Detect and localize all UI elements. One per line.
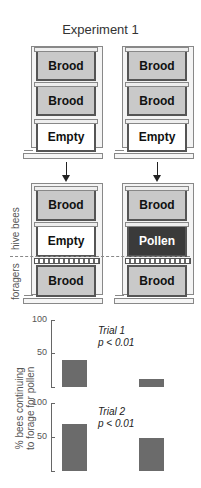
divider-line	[10, 256, 190, 257]
bar-pollen	[139, 379, 164, 387]
box-empty: Empty	[36, 225, 96, 257]
box-brood: Brood	[36, 265, 96, 297]
box-brood: Brood	[36, 50, 96, 81]
figure-title: Experiment 1	[0, 22, 201, 37]
foragers-label: foragers	[10, 263, 21, 300]
down-arrow-icon	[157, 162, 158, 176]
box-brood: Brood	[127, 85, 187, 116]
box-brood: Brood	[36, 189, 96, 221]
bar-empty	[62, 360, 87, 387]
box-empty: Empty	[127, 122, 187, 152]
queen-excluder	[125, 258, 191, 264]
box-empty: Empty	[36, 122, 96, 152]
box-brood: Brood	[36, 85, 96, 116]
bar-pollen	[139, 438, 164, 471]
hive-bees-label: hive bees	[10, 207, 21, 250]
down-arrow-icon	[66, 162, 67, 176]
box-brood: Brood	[127, 50, 187, 81]
trial-annotation: Trial 2 p < 0.01	[98, 406, 134, 430]
box-brood: Brood	[127, 265, 187, 297]
queen-excluder	[34, 258, 100, 264]
box-brood: Brood	[127, 189, 187, 221]
box-pollen: Pollen	[127, 225, 187, 257]
bar-empty	[62, 424, 87, 471]
trial-annotation: Trial 1 p < 0.01	[98, 325, 134, 349]
